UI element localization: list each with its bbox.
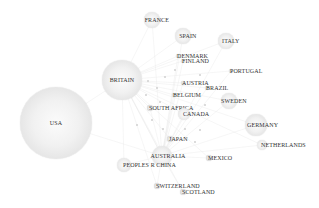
minor-node <box>145 94 147 96</box>
minor-node <box>199 129 201 131</box>
minor-node <box>204 104 206 106</box>
node-label-peoples-r-china: PEOPLES R CHINA <box>123 162 176 168</box>
minor-node <box>151 119 153 121</box>
node-label-canada: CANADA <box>183 111 209 117</box>
minor-node <box>174 69 176 71</box>
minor-node <box>147 80 149 82</box>
node-label-belgium: BELGIUM <box>173 92 201 98</box>
node-label-mexico: MEXICO <box>208 155 232 161</box>
minor-node <box>199 74 201 76</box>
node-label-japan: JAPAN <box>169 136 188 142</box>
minor-node <box>194 141 196 143</box>
node-label-france: FRANCE <box>145 17 169 23</box>
node-label-usa: USA <box>50 120 62 126</box>
node-label-finland: FINLAND <box>182 58 209 64</box>
minor-node <box>184 128 186 130</box>
node-label-spain: SPAIN <box>179 33 196 39</box>
node-label-scotland: SCOTLAND <box>182 189 215 195</box>
node-label-italy: ITALY <box>222 38 239 44</box>
node-label-brazil: BRAZIL <box>206 85 228 91</box>
minor-node <box>136 124 138 126</box>
minor-node <box>164 76 166 78</box>
node-label-netherlands: NETHERLANDS <box>261 142 306 148</box>
network-diagram: USABRITAINFRANCESPAINITALYDENMARKFINLAND… <box>0 0 319 208</box>
node-label-britain: BRITAIN <box>110 77 135 83</box>
node-label-portugal: PORTUGAL <box>230 68 262 74</box>
node-label-germany: GERMANY <box>247 122 278 128</box>
node-label-australia: AUSTRALIA <box>151 153 186 159</box>
minor-node <box>162 128 164 130</box>
node-label-sweden: SWEDEN <box>221 98 247 104</box>
minor-node <box>159 101 161 103</box>
minor-node <box>156 87 158 89</box>
node-label-austria: AUSTRIA <box>182 80 209 86</box>
